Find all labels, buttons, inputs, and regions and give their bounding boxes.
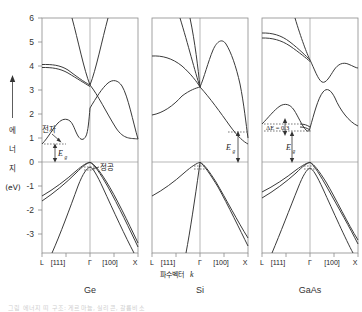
si-cb-from-L xyxy=(152,56,200,87)
si-vb-steep xyxy=(186,162,200,253)
y-tick-2: 2 xyxy=(29,109,34,119)
gaas-cb-gamma-right xyxy=(310,90,358,128)
gaas-delta-e-label: ΔE = 0.3 xyxy=(266,124,289,131)
si-eg-sub: g xyxy=(233,148,236,154)
panel-gaas-xticks: L [111] Γ [100] X xyxy=(260,253,358,267)
si-cb-upper-left xyxy=(190,18,200,87)
y-tick-4: 4 xyxy=(29,61,34,71)
panel-gaas-title: GaAs xyxy=(299,285,322,295)
y-tick-5: 5 xyxy=(29,37,34,47)
si-xtick-X: X xyxy=(243,259,248,266)
panel-si-title: Si xyxy=(196,285,204,295)
si-xtick-111: [111] xyxy=(161,259,176,267)
gaas-cb-mini-a xyxy=(300,124,310,127)
si-vb-light xyxy=(200,162,248,238)
ge-hole-label: 정공 xyxy=(100,162,114,172)
si-vb-heavy xyxy=(200,162,248,246)
gaas-xtick-111: [111] xyxy=(271,259,286,267)
panel-ge-annotations: 전자 E g 정공 xyxy=(42,124,114,172)
panel-si-xticks: L [111] Γ [100] X xyxy=(150,253,248,267)
si-cb-L-rising xyxy=(152,87,200,115)
x-axis-title-symbol: k xyxy=(190,270,194,279)
panel-si: E g L [111] Γ [100] X Si xyxy=(150,18,248,295)
figure-caption: 그림 에너지 띠 구조: 게르마늄, 실리콘, 갈륨비소 xyxy=(8,303,145,312)
y-tick-m1: -1 xyxy=(26,181,34,191)
ge-xtick-L: L xyxy=(40,259,44,266)
ge-eg-arrow-icon xyxy=(53,144,57,163)
y-axis-label-group: 에 너 지 (eV) xyxy=(5,75,21,192)
si-xtick-100: [100] xyxy=(213,259,229,267)
gaas-xtick-100: [100] xyxy=(324,259,340,267)
panel-ge-title: Ge xyxy=(84,285,96,295)
gaas-vb-splitoff xyxy=(272,168,353,253)
y-tick-3: 3 xyxy=(29,85,34,95)
ge-xtick-X: X xyxy=(133,259,138,266)
ge-cb-flat-upper-b xyxy=(42,67,90,86)
si-eg-arrow-icon xyxy=(236,131,240,163)
gaas-cb-upper xyxy=(295,18,358,82)
si-cb-gamma-deep xyxy=(180,18,248,138)
ge-cb-x-hump xyxy=(90,81,138,139)
si-cb-to-x-min xyxy=(200,87,248,144)
ge-eg-sub: g xyxy=(65,154,68,160)
panel-ge: 전자 E g 정공 xyxy=(40,18,138,295)
y-tick-1: 1 xyxy=(29,133,34,143)
si-eg-label: E xyxy=(225,143,231,152)
si-xtick-L: L xyxy=(150,259,154,266)
ge-eg-label: E xyxy=(57,149,63,158)
y-label-char-2: 지 xyxy=(9,164,16,173)
y-tick-6: 6 xyxy=(29,13,34,23)
ge-xtick-100: [100] xyxy=(102,259,118,267)
gaas-xtick-L: L xyxy=(260,259,264,266)
y-axis-ticks: 6 5 4 3 2 1 0 -1 -2 -3 xyxy=(26,13,42,239)
energy-arrow-icon xyxy=(10,75,15,118)
y-label-char-0: 에 xyxy=(9,126,16,135)
y-label-char-1: 너 xyxy=(9,144,16,154)
ge-xtick-111: [111] xyxy=(51,259,66,267)
ge-electron-label: 전자 xyxy=(42,124,56,134)
band-structure-figure: 에 너 지 (eV) 6 5 4 3 2 1 0 -1 -2 -3 xyxy=(0,0,362,312)
y-tick-0: 0 xyxy=(29,157,34,167)
y-label-unit: (eV) xyxy=(5,183,21,192)
y-tick-m2: -2 xyxy=(26,205,34,215)
panel-ge-xticks: L [111] Γ [100] X xyxy=(40,253,138,267)
gaas-eg-sub: g xyxy=(293,148,296,154)
gaas-eg-label: E xyxy=(285,143,291,152)
gaas-xtick-gamma: Γ xyxy=(308,259,312,266)
gaas-xtick-X: X xyxy=(353,259,358,266)
panel-gaas: ΔE = 0.3 E g L [111] xyxy=(260,18,358,295)
si-xtick-gamma: Γ xyxy=(198,259,202,266)
si-vb-from-L xyxy=(152,162,200,196)
y-tick-m3: -3 xyxy=(26,229,34,239)
ge-xtick-gamma: Γ xyxy=(88,259,92,266)
x-axis-title-group: 파수벡터 k xyxy=(160,270,194,279)
x-axis-title: 파수벡터 xyxy=(160,270,184,279)
